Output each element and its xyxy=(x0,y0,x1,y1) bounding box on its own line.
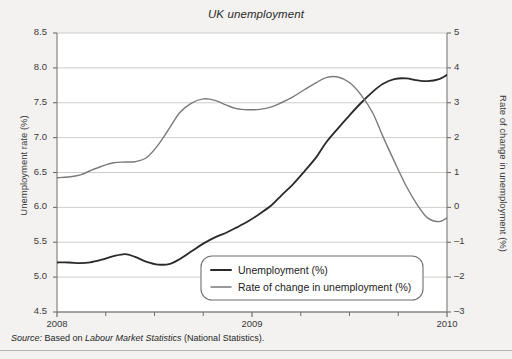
plot-area: Unemployment (%)Rate of change in unempl… xyxy=(0,0,512,359)
source-label: Source: xyxy=(11,333,42,343)
source-suffix: (National Statistics). xyxy=(182,333,265,343)
legend-label-1: Unemployment (%) xyxy=(238,264,328,276)
footer-divider xyxy=(0,350,512,351)
source-note: Source: Based on Labour Market Statistic… xyxy=(11,333,264,343)
legend-box xyxy=(201,256,423,300)
chart-figure: UK unemployment Unemployment rate (%) Ra… xyxy=(0,0,512,359)
source-publication: Labour Market Statistics xyxy=(85,333,182,343)
chart-legend: Unemployment (%)Rate of change in unempl… xyxy=(201,256,423,300)
legend-label-2: Rate of change in unemployment (%) xyxy=(238,281,411,293)
source-middle: Based on xyxy=(42,333,85,343)
